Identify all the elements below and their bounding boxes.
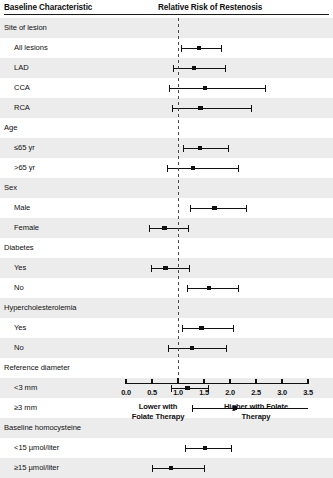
confidence-interval-line — [187, 288, 238, 289]
ci-cap-right — [265, 85, 266, 92]
confidence-interval-line — [172, 108, 251, 109]
data-row: RCA — [0, 98, 333, 118]
ci-cap-left — [173, 65, 174, 72]
axis-tick-label: 2.5 — [251, 388, 261, 397]
point-estimate-marker — [197, 46, 201, 50]
ci-cap-left — [183, 145, 184, 152]
point-estimate-marker — [198, 106, 202, 110]
group-row: Hypercholesterolemia — [0, 298, 333, 318]
group-label: Age — [4, 123, 17, 132]
data-row: LAD — [0, 58, 333, 78]
ci-plot — [0, 278, 333, 298]
ci-cap-left — [169, 85, 170, 92]
ci-cap-left — [182, 325, 183, 332]
x-axis: 0.00.51.01.52.02.53.03.5 Lower with Fola… — [0, 383, 333, 438]
ci-cap-right — [221, 45, 222, 52]
ci-cap-right — [246, 205, 247, 212]
axis-tick-label: 0.0 — [121, 388, 131, 397]
axis-caption-left-line1: Lower with — [108, 402, 208, 412]
data-row: CCA — [0, 78, 333, 98]
data-row: ≥15 µmol/liter — [0, 458, 333, 478]
ci-cap-left — [181, 45, 182, 52]
group-row: Site of lesion — [0, 18, 333, 38]
ci-cap-left — [190, 205, 191, 212]
confidence-interval-line — [190, 208, 246, 209]
confidence-interval-line — [151, 268, 188, 269]
ci-plot — [0, 158, 333, 178]
ci-cap-left — [149, 225, 150, 232]
axis-tick — [281, 379, 282, 384]
ci-plot — [0, 438, 333, 458]
ci-plot — [0, 258, 333, 278]
confidence-interval-line — [183, 148, 228, 149]
point-estimate-marker — [198, 146, 202, 150]
ci-cap-right — [228, 145, 229, 152]
ci-cap-left — [185, 445, 186, 452]
point-estimate-marker — [190, 346, 194, 350]
axis-tick — [229, 379, 230, 384]
ci-plot — [0, 98, 333, 118]
ci-cap-left — [172, 105, 173, 112]
group-label: Sex — [4, 183, 17, 192]
data-row: ≤65 yr — [0, 138, 333, 158]
point-estimate-marker — [163, 266, 167, 270]
ci-cap-right — [238, 285, 239, 292]
data-row: Male — [0, 198, 333, 218]
point-estimate-marker — [162, 226, 166, 230]
point-estimate-marker — [212, 206, 216, 210]
point-estimate-marker — [207, 286, 211, 290]
ci-cap-right — [189, 265, 190, 272]
ci-cap-left — [187, 285, 188, 292]
axis-tick-label: 1.5 — [199, 388, 209, 397]
ci-plot — [0, 38, 333, 58]
ci-cap-right — [231, 445, 232, 452]
data-row: No — [0, 338, 333, 358]
confidence-interval-line — [182, 328, 232, 329]
axis-tick — [125, 379, 126, 384]
ci-plot — [0, 138, 333, 158]
axis-tick-label: 1.0 — [173, 388, 183, 397]
data-row: No — [0, 278, 333, 298]
axis-caption-left: Lower with Folate Therapy — [108, 402, 208, 421]
data-row: All lesions — [0, 38, 333, 58]
confidence-interval-line — [149, 228, 188, 229]
group-row: Sex — [0, 178, 333, 198]
axis-tick — [203, 379, 204, 384]
header-divider — [4, 14, 329, 15]
ci-cap-left — [168, 345, 169, 352]
point-estimate-marker — [191, 166, 195, 170]
ci-cap-right — [225, 65, 226, 72]
ci-cap-right — [188, 225, 189, 232]
group-label: Reference diameter — [4, 363, 70, 372]
axis-tick-label: 3.0 — [277, 388, 287, 397]
point-estimate-marker — [192, 66, 196, 70]
axis-caption-right: Higher with Folate Therapy — [196, 402, 316, 421]
axis-tick-label: 0.5 — [147, 388, 157, 397]
axis-tick-label: 3.5 — [303, 388, 313, 397]
ci-cap-left — [152, 465, 153, 472]
group-row: Reference diameter — [0, 358, 333, 378]
axis-tick — [177, 378, 178, 384]
confidence-interval-line — [185, 448, 231, 449]
ci-plot — [0, 338, 333, 358]
axis-tick-label: 2.0 — [225, 388, 235, 397]
ci-cap-left — [167, 165, 168, 172]
group-label: Diabetes — [4, 243, 34, 252]
ci-plot — [0, 58, 333, 78]
ci-plot — [0, 218, 333, 238]
axis-caption-right-line1: Higher with Folate — [196, 402, 316, 412]
column-header-relative-risk: Relative Risk of Restenosis — [158, 3, 262, 12]
data-row: Yes — [0, 258, 333, 278]
group-label: Hypercholesterolemia — [4, 303, 76, 312]
group-row: Age — [0, 118, 333, 138]
ci-cap-right — [238, 165, 239, 172]
data-row: <15 µmol/liter — [0, 438, 333, 458]
axis-tick — [151, 379, 152, 384]
ci-cap-right — [204, 465, 205, 472]
ci-plot — [0, 318, 333, 338]
point-estimate-marker — [203, 86, 207, 90]
ci-cap-right — [233, 325, 234, 332]
chart-header: Baseline Characteristic Relative Risk of… — [0, 3, 333, 19]
point-estimate-marker — [199, 326, 203, 330]
